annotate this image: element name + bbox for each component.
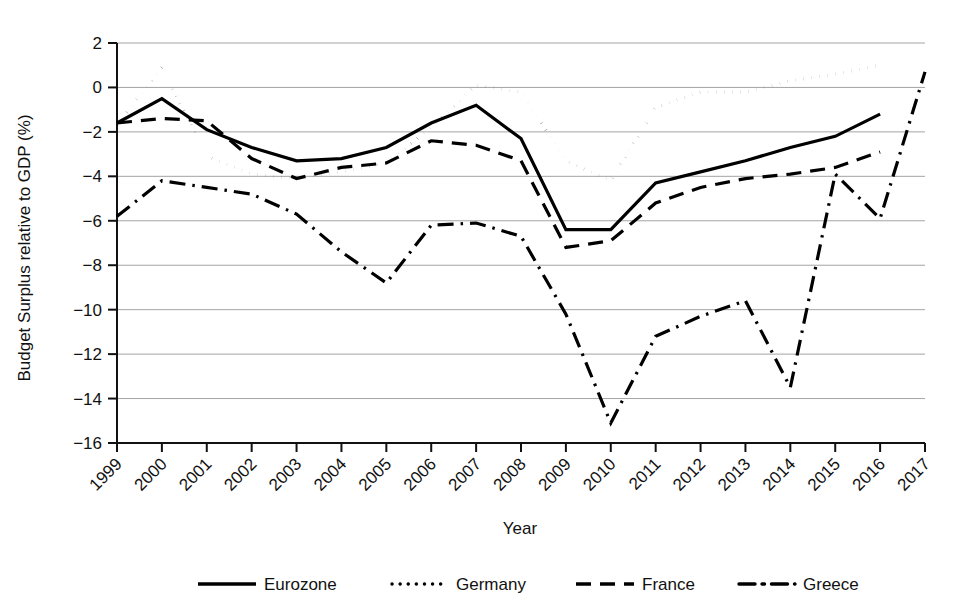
x-tick-label: 1999 [86, 454, 126, 494]
y-tick-label: −8 [83, 256, 102, 275]
x-tick-label: 2010 [579, 454, 619, 494]
y-tick-marks [108, 43, 117, 443]
y-tick-label: −4 [83, 167, 102, 186]
legend-label-greece: Greece [803, 575, 859, 594]
x-tick-label: 2000 [131, 454, 171, 494]
y-tick-label: 2 [93, 34, 102, 53]
data-series-group [117, 65, 925, 423]
y-tick-label: −10 [73, 301, 102, 320]
y-tick-labels: 20−2−4−6−8−10−12−14−16 [73, 34, 102, 453]
x-axis-title: Year [503, 519, 538, 538]
x-tick-label: 2008 [490, 454, 530, 494]
x-tick-labels: 1999200020012002200320042005200620072008… [86, 454, 934, 494]
legend-label-germany: Germany [456, 575, 526, 594]
y-tick-label: −14 [73, 390, 102, 409]
y-tick-label: −6 [83, 212, 102, 231]
x-tick-label: 2006 [400, 454, 440, 494]
chart-legend: EurozoneGermanyFranceGreece [198, 575, 859, 594]
budget-surplus-line-chart: 20−2−4−6−8−10−12−14−16 19992000200120022… [0, 0, 962, 615]
x-tick-label: 2007 [445, 454, 485, 494]
legend-label-eurozone: Eurozone [264, 575, 337, 594]
x-tick-marks [117, 443, 925, 452]
x-tick-label: 2004 [310, 454, 350, 494]
gridlines [117, 43, 925, 443]
y-tick-label: 0 [93, 78, 102, 97]
x-tick-label: 2016 [849, 454, 889, 494]
series-line-greece [117, 72, 925, 423]
series-line-eurozone [117, 99, 880, 230]
x-tick-label: 2002 [220, 454, 260, 494]
x-tick-label: 2015 [804, 454, 844, 494]
x-tick-label: 2005 [355, 454, 395, 494]
legend-label-france: France [642, 575, 695, 594]
y-axis-title: Budget Surplus relative to GDP (%) [15, 114, 34, 381]
axes [117, 43, 925, 443]
x-tick-label: 2013 [714, 454, 754, 494]
chart-figure: 20−2−4−6−8−10−12−14−16 19992000200120022… [0, 0, 962, 615]
y-tick-label: −2 [83, 123, 102, 142]
x-tick-label: 2012 [669, 454, 709, 494]
x-tick-label: 2003 [265, 454, 305, 494]
x-tick-label: 2011 [625, 454, 664, 493]
x-tick-label: 2001 [175, 454, 215, 494]
x-tick-label: 2014 [759, 454, 799, 494]
x-tick-label: 2009 [535, 454, 575, 494]
x-tick-label: 2017 [894, 454, 934, 494]
y-tick-label: −16 [73, 434, 102, 453]
y-tick-label: −12 [73, 345, 102, 364]
